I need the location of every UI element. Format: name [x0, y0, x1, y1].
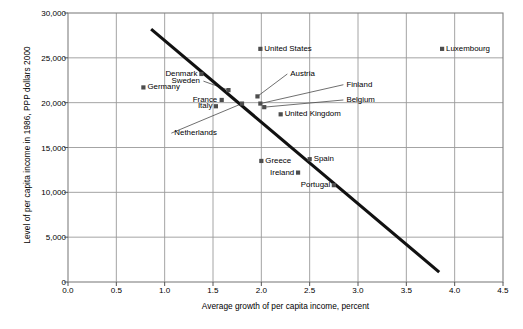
marker-united-states — [258, 47, 262, 51]
label-greece: Greece — [265, 156, 291, 165]
marker-portugal — [332, 183, 336, 187]
marker-greece — [259, 159, 263, 163]
marker-france — [220, 98, 224, 102]
marker-ireland — [296, 171, 300, 175]
marker-united-kingdom — [279, 112, 283, 116]
plot-area — [0, 0, 523, 329]
marker-italy — [214, 104, 218, 108]
label-portugal: Portugal — [301, 180, 330, 189]
label-spain: Spain — [314, 154, 334, 163]
label-netherlands: Netherlands — [174, 128, 217, 137]
marker-germany — [141, 85, 145, 89]
trendline — [151, 29, 439, 272]
label-ireland: Ireland — [270, 168, 294, 177]
axis-ticks — [64, 13, 503, 286]
label-luxembourg: Luxembourg — [446, 44, 490, 53]
marker-finland — [258, 101, 262, 105]
marker-sweden — [226, 88, 230, 92]
marker-luxembourg — [440, 47, 444, 51]
marker-netherlands — [240, 101, 244, 105]
label-finland: Finland — [346, 80, 372, 89]
label-austria: Austria — [290, 69, 315, 78]
marker-belgium — [262, 105, 266, 109]
gridlines — [68, 13, 503, 282]
label-belgium: Belgium — [346, 95, 375, 104]
marker-spain — [308, 157, 312, 161]
scatter-chart-figure: Level of per capita income in 1986, PPP … — [0, 0, 523, 329]
label-united-kingdom: United Kingdom — [285, 109, 341, 118]
label-sweden: Sweden — [171, 76, 200, 85]
label-italy: Italy — [198, 101, 212, 110]
label-united-states: United States — [264, 44, 311, 53]
marker-austria — [255, 94, 259, 98]
